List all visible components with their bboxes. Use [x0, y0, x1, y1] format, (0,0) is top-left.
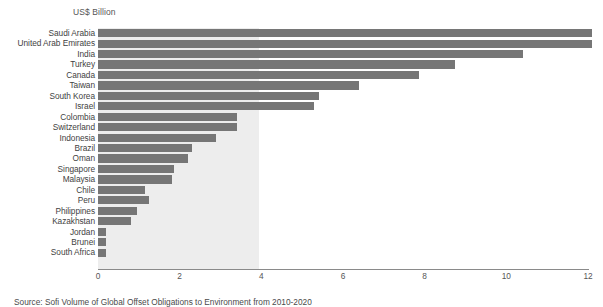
bar [98, 154, 188, 162]
x-tick-label: 4 [259, 271, 264, 281]
bar [98, 92, 319, 100]
bar-row [98, 143, 588, 153]
axis-unit-label: US$ Billion [73, 7, 116, 17]
bar-series [98, 28, 588, 269]
category-label: Kazakhstan [0, 216, 95, 226]
x-tick-label: 8 [422, 271, 427, 281]
category-label: Brunei [0, 237, 95, 247]
category-label: Indonesia [0, 133, 95, 143]
category-label: Saudi Arabia [0, 28, 95, 38]
bar-row [98, 227, 588, 237]
bar-row [98, 206, 588, 216]
x-tick-label: 6 [341, 271, 346, 281]
x-tick-label: 0 [96, 271, 101, 281]
category-label: Singapore [0, 164, 95, 174]
bar-chart-figure: US$ Billion Saudi ArabiaUnited Arab Emir… [0, 0, 603, 307]
bar-row [98, 70, 588, 80]
x-tick-label: 2 [177, 271, 182, 281]
bar-row [98, 247, 588, 257]
bar [98, 175, 172, 183]
bar-row [98, 185, 588, 195]
plot-area [98, 28, 588, 269]
category-label: Colombia [0, 112, 95, 122]
category-label: Brazil [0, 143, 95, 153]
category-label: Jordan [0, 227, 95, 237]
category-label: Peru [0, 195, 95, 205]
bar [98, 50, 523, 58]
bar-row [98, 195, 588, 205]
x-axis-line [98, 269, 589, 270]
category-label: Switzerland [0, 122, 95, 132]
bar [98, 81, 359, 89]
bar [98, 60, 455, 68]
category-label: Philippines [0, 206, 95, 216]
category-label: Israel [0, 101, 95, 111]
bar-row [98, 216, 588, 226]
category-label: United Arab Emirates [0, 38, 95, 48]
bar [98, 238, 106, 246]
bar [98, 186, 145, 194]
bar [98, 217, 131, 225]
bar-row [98, 91, 588, 101]
bar [98, 102, 314, 110]
bar [98, 228, 106, 236]
x-axis-tick-labels: 024681012 [98, 271, 588, 285]
bar-row [98, 174, 588, 184]
bar-row [98, 28, 588, 38]
bar [98, 249, 106, 257]
bar [98, 29, 592, 37]
category-label: South Korea [0, 91, 95, 101]
bar-row [98, 153, 588, 163]
category-axis-labels: Saudi ArabiaUnited Arab EmiratesIndiaTur… [0, 28, 95, 269]
bar [98, 134, 216, 142]
bar-row [98, 237, 588, 247]
bar-row [98, 49, 588, 59]
bar [98, 40, 592, 48]
bar [98, 144, 192, 152]
bar-row [98, 112, 588, 122]
bar [98, 71, 419, 79]
bar-row [98, 164, 588, 174]
figure-caption: Source: Sofi Volume of Global Offset Obl… [14, 297, 312, 307]
bar [98, 123, 237, 131]
category-label: Taiwan [0, 80, 95, 90]
category-label: Chile [0, 185, 95, 195]
category-label: South Africa [0, 247, 95, 257]
category-label: Turkey [0, 59, 95, 69]
bar-row [98, 59, 588, 69]
category-label: Malaysia [0, 174, 95, 184]
bar [98, 113, 237, 121]
bar-row [98, 38, 588, 48]
x-tick-label: 10 [502, 271, 511, 281]
bar-row [98, 80, 588, 90]
bar [98, 207, 137, 215]
bar-row [98, 122, 588, 132]
bar [98, 165, 174, 173]
category-label: Oman [0, 153, 95, 163]
bar-row [98, 133, 588, 143]
category-label: Canada [0, 70, 95, 80]
category-label: India [0, 49, 95, 59]
x-tick-label: 12 [583, 271, 592, 281]
bar [98, 196, 149, 204]
bar-row [98, 101, 588, 111]
